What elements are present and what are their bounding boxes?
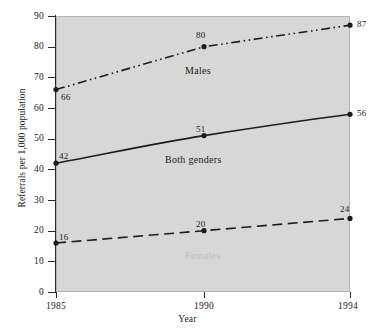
series-label-both-genders: Both genders bbox=[165, 155, 222, 165]
y-tick-label-10: 10 bbox=[18, 257, 44, 267]
value-label-females-1990: 20 bbox=[196, 220, 205, 229]
x-tick-mark-1985 bbox=[56, 292, 57, 298]
y-tick-label-90: 90 bbox=[18, 12, 44, 22]
value-label-females-1994: 24 bbox=[340, 205, 349, 214]
value-label-females-1985: 16 bbox=[59, 233, 68, 242]
data-point-males-1994 bbox=[347, 23, 352, 28]
data-point-females-1994 bbox=[347, 216, 352, 221]
y-tick-mark-80 bbox=[48, 47, 56, 48]
x-tick-label-1985: 1985 bbox=[26, 301, 86, 311]
referrals-line-chart: 90 80 70 60 50 40 30 20 10 0 1985 1990 1… bbox=[0, 0, 375, 331]
y-tick-mark-30 bbox=[48, 200, 56, 201]
y-axis-title: Referrals per 1,000 population bbox=[17, 48, 27, 248]
value-label-males-1994: 87 bbox=[357, 20, 366, 29]
y-tick-mark-20 bbox=[48, 231, 56, 232]
data-point-both-1994 bbox=[347, 112, 352, 117]
y-tick-mark-60 bbox=[48, 108, 56, 109]
series-label-females: Females bbox=[185, 251, 220, 261]
x-tick-mark-1994 bbox=[350, 292, 351, 298]
y-tick-mark-50 bbox=[48, 139, 56, 140]
y-tick-mark-90 bbox=[48, 16, 56, 17]
value-label-both-1994: 56 bbox=[357, 109, 366, 118]
y-tick-mark-70 bbox=[48, 77, 56, 78]
y-tick-mark-0 bbox=[48, 292, 56, 293]
series-label-males: Males bbox=[185, 66, 211, 76]
x-tick-label-1994: 1994 bbox=[318, 301, 375, 311]
value-label-males-1990: 80 bbox=[196, 31, 205, 40]
data-point-males-1990 bbox=[201, 44, 206, 49]
value-label-both-1985: 42 bbox=[59, 152, 68, 161]
data-point-females-1985 bbox=[53, 240, 58, 245]
y-tick-mark-40 bbox=[48, 169, 56, 170]
x-axis-title: Year bbox=[0, 314, 375, 324]
y-tick-label-0: 0 bbox=[18, 288, 44, 298]
data-point-males-1985 bbox=[53, 87, 58, 92]
x-tick-mark-1990 bbox=[204, 292, 205, 298]
y-tick-mark-10 bbox=[48, 261, 56, 262]
data-point-both-1985 bbox=[53, 161, 58, 166]
x-tick-label-1990: 1990 bbox=[174, 301, 234, 311]
value-label-both-1990: 51 bbox=[196, 125, 205, 134]
value-label-males-1985: 66 bbox=[61, 93, 70, 102]
